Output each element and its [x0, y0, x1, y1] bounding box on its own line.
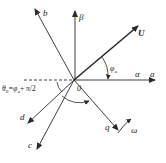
label-alpha: α — [135, 69, 140, 79]
diagram-canvas: b β U α a φu 0 θ0=φu+ π/2 d c q ω — [0, 0, 166, 163]
phi-u-arc — [102, 57, 108, 79]
u-vector — [74, 26, 138, 80]
label-c: c — [28, 140, 32, 150]
label-origin: 0 — [77, 84, 81, 93]
label-omega: ω — [131, 125, 137, 135]
theta0-arc-lower — [62, 96, 89, 103]
label-a: a — [150, 69, 155, 79]
label-d: d — [20, 112, 25, 122]
b-axis — [35, 9, 74, 80]
vector-diagram: b β U α a φu 0 θ0=φu+ π/2 d c q ω — [0, 0, 166, 163]
label-phi-u: φu — [110, 64, 117, 74]
omega-rotation-arrow — [118, 119, 131, 133]
c-axis — [37, 80, 74, 149]
theta0-arc — [57, 82, 62, 92]
label-b: b — [43, 8, 48, 18]
label-q: q — [105, 122, 110, 132]
label-u: U — [138, 28, 145, 38]
label-theta0-equation: θ0=φu+ π/2 — [2, 84, 36, 94]
label-beta: β — [78, 12, 84, 22]
